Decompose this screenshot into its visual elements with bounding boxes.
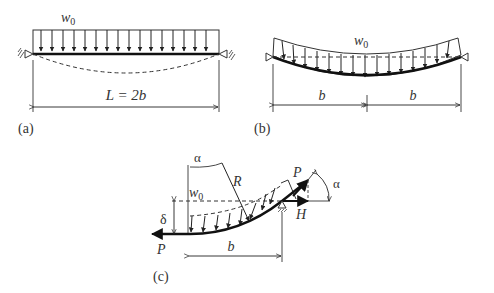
panel-label-a: (a)	[18, 121, 34, 137]
deflection-label: δ	[160, 212, 167, 227]
panel-label-b: (b)	[254, 121, 271, 137]
force-label-right: P	[292, 165, 302, 180]
span-label-c: b	[228, 239, 235, 254]
horizontal-force-label: H	[295, 207, 307, 222]
beam-figure: w0 L = 2b (a) w0 b b (b) α R w0	[0, 0, 494, 293]
radius-label: R	[232, 174, 242, 189]
panel-c: α R w0 δ P P H α b (c)	[152, 150, 340, 285]
panel-a: w0 L = 2b (a)	[18, 10, 235, 137]
angle-label-top: α	[194, 150, 201, 165]
diagram-canvas: w0 L = 2b (a) w0 b b (b) α R w0	[0, 0, 494, 293]
span-label-a: L = 2b	[105, 87, 147, 103]
panel-b: w0 b b (b)	[254, 33, 468, 137]
span-label-b-right: b	[410, 88, 417, 103]
angle-label-right: α	[333, 176, 340, 191]
load-label-c: w0	[189, 185, 203, 202]
panel-label-c: (c)	[153, 269, 169, 285]
force-label-left: P	[156, 242, 166, 257]
span-label-b-left: b	[319, 88, 326, 103]
load-label-a: w0	[61, 10, 75, 27]
load-label-b: w0	[354, 33, 368, 50]
